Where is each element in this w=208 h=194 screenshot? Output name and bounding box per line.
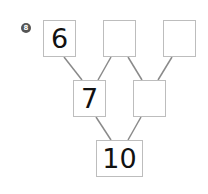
box-top-left[interactable]: 6 [43, 20, 76, 57]
box-bottom[interactable]: 10 [96, 140, 143, 177]
box-middle-left[interactable]: 7 [73, 80, 106, 117]
box-top-middle[interactable] [103, 20, 136, 57]
box-middle-right[interactable] [133, 80, 166, 117]
box-top-right[interactable] [163, 20, 196, 57]
problem-number-badge: 8 [21, 23, 31, 33]
